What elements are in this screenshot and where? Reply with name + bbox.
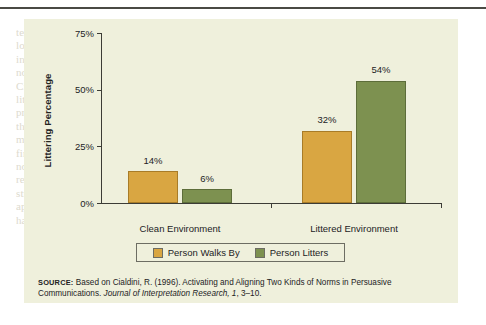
legend-label-person-litters: Person Litters (270, 247, 329, 258)
plot-area: 14% 6% 32% 54% Clean Environment Littere… (102, 33, 440, 203)
source-note: SOURCE: Based on Cialdini, R. (1996). Ac… (38, 277, 448, 300)
bar-littered-person-walks-by[interactable] (302, 131, 352, 204)
source-note-journal: Journal of Interpretation Research, 1 (104, 289, 237, 298)
y-axis-tick-75 (97, 33, 101, 34)
y-axis-tick-labels: 75% 50% 25% 0% (60, 19, 94, 235)
page-top-rule (0, 7, 486, 9)
source-note-label: SOURCE: (38, 278, 73, 287)
x-axis-end-tick (441, 203, 442, 208)
y-tick-label-50: 50% (64, 84, 94, 95)
y-tick-label-25: 25% (64, 141, 94, 152)
bar-label-littered-person-litters: 54% (358, 64, 404, 75)
bar-label-clean-person-walks-by: 14% (130, 155, 176, 166)
y-axis-tick-0 (97, 203, 101, 204)
bar-label-clean-person-litters: 6% (184, 173, 230, 184)
y-axis-tick-25 (97, 146, 101, 147)
source-note-line1: Based on Cialdini, R. (1996). Activating… (73, 278, 391, 287)
y-axis-tick-50 (97, 90, 101, 91)
figure-panel: Littering Percentage 75% 50% 25% 0% 14% … (24, 19, 458, 303)
legend-label-person-walks-by: Person Walks By (168, 247, 240, 258)
y-tick-label-0: 0% (64, 198, 94, 209)
source-note-line2-prefix: Communications. (38, 289, 104, 298)
bar-clean-person-litters[interactable] (182, 189, 232, 203)
y-tick-label-75: 75% (64, 28, 94, 39)
x-category-label-clean-environment: Clean Environment (100, 223, 260, 234)
legend-item-person-walks-by[interactable]: Person Walks By (153, 247, 240, 258)
bar-littered-person-litters[interactable] (356, 81, 406, 203)
bar-chart: Littering Percentage 75% 50% 25% 0% 14% … (24, 19, 458, 235)
x-category-label-littered-environment: Littered Environment (274, 223, 434, 234)
bar-label-littered-person-walks-by: 32% (304, 114, 350, 125)
bar-clean-person-walks-by[interactable] (128, 171, 178, 203)
source-note-pages: , 3–10. (236, 289, 261, 298)
y-axis-title: Littering Percentage (42, 61, 53, 181)
x-axis-group-divider (271, 203, 272, 208)
legend-item-person-litters[interactable]: Person Litters (255, 247, 329, 258)
chart-legend: Person Walks By Person Litters (136, 243, 345, 262)
legend-swatch-icon-person-litters (255, 248, 265, 258)
legend-swatch-icon-person-walks-by (153, 248, 163, 258)
x-axis-line (97, 203, 442, 204)
